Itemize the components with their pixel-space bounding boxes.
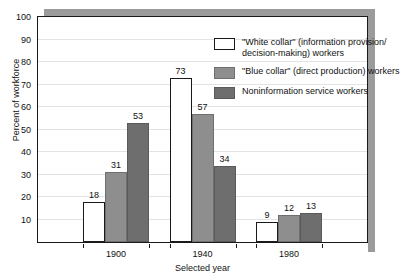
chart-legend: "White collar" (information provision/de…	[214, 37, 404, 106]
legend-swatch	[214, 38, 235, 50]
x-axis-tick-label: 1980	[279, 249, 299, 259]
bar	[83, 202, 105, 243]
legend-swatch	[214, 67, 235, 79]
x-axis-ticks: 190019401980	[37, 244, 368, 260]
plot-area: 18315373573491213 "White collar" (inform…	[37, 16, 368, 243]
bar	[256, 222, 278, 242]
bar-value-label: 34	[219, 154, 229, 164]
y-axis-tick-label: 20	[21, 193, 31, 202]
x-axis-tick-mark	[149, 244, 150, 248]
y-axis-tick-label: 80	[21, 58, 31, 67]
bar-value-label: 18	[89, 190, 99, 200]
y-axis-tick-label: 30	[21, 170, 31, 179]
bar	[278, 215, 300, 242]
x-axis-tick-mark	[83, 244, 84, 248]
x-axis-tick-mark	[170, 244, 171, 248]
bar-value-label: 13	[306, 201, 316, 211]
x-axis-tick-label: 1900	[106, 249, 126, 259]
bar-value-label: 73	[175, 66, 185, 76]
bar-value-label: 9	[265, 210, 270, 220]
bar	[300, 213, 322, 242]
bar-value-label: 12	[284, 203, 294, 213]
legend-swatch	[214, 87, 235, 99]
y-axis-tick-label: 50	[21, 125, 31, 134]
bar	[192, 114, 214, 242]
y-axis-tick-label: 40	[21, 148, 31, 157]
y-axis-tick-label: 10	[21, 215, 31, 224]
legend-item: "Blue collar" (direct production) worker…	[214, 66, 404, 79]
y-axis-title: Percent of workforce	[11, 40, 21, 160]
legend-label: "Blue collar" (direct production) worker…	[242, 66, 399, 77]
legend-item: "White collar" (information provision/de…	[214, 37, 404, 59]
legend-label: Noninformation service workers	[242, 86, 368, 97]
x-axis-tick-mark	[322, 244, 323, 248]
bar	[105, 172, 127, 242]
bar	[127, 123, 149, 242]
bar-value-label: 31	[111, 160, 121, 170]
x-axis-title: Selected year	[37, 263, 368, 273]
legend-label: "White collar" (information provision/de…	[242, 37, 386, 59]
y-axis-tick-label: 90	[21, 35, 31, 44]
y-axis-tick-label: 60	[21, 103, 31, 112]
y-axis-tick-label: 70	[21, 80, 31, 89]
bar	[170, 78, 192, 242]
x-axis-tick-mark	[256, 244, 257, 248]
x-axis-tick-mark	[236, 244, 237, 248]
figure-shadow-top	[44, 9, 375, 16]
legend-item: Noninformation service workers	[214, 86, 404, 99]
bar-value-label: 57	[197, 102, 207, 112]
x-axis-tick-label: 1940	[192, 249, 212, 259]
bar-value-label: 53	[133, 111, 143, 121]
y-axis-tick-label: 100	[16, 13, 31, 22]
bar	[214, 166, 236, 243]
